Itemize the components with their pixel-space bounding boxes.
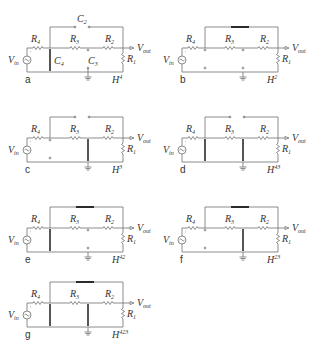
vin-label: Vin (8, 145, 19, 156)
plus-sign: + (184, 229, 187, 234)
R1-label: R1 (282, 54, 291, 65)
circuit-panel: + R4 R3 R2 R1 Vin Vout H3 c (0, 90, 150, 170)
R3-label: R3 (70, 214, 79, 225)
R1-label: R1 (127, 234, 136, 245)
vout-label: Vout (137, 43, 151, 54)
panel-tag: b (180, 75, 186, 85)
panel-tag: c (25, 165, 30, 175)
circuit-panel: + R4 R3 R2 R1 Vin Vout H423 g (0, 255, 150, 335)
R4-label: R4 (31, 214, 40, 225)
plus-sign: + (29, 229, 32, 234)
R4-label: R4 (31, 34, 40, 45)
R3-label: R3 (225, 34, 234, 45)
transfer-label: H4 (112, 74, 122, 85)
R2-label: R2 (260, 124, 269, 135)
plus-sign: + (29, 49, 32, 54)
R3-label: R3 (225, 124, 234, 135)
R2-label: R2 (105, 34, 114, 45)
R4-label: R4 (31, 124, 40, 135)
vin-label: Vin (8, 310, 19, 321)
plus-sign: + (184, 49, 187, 54)
vout-label: Vout (292, 43, 306, 54)
circuit-panel: + R4 R3 R2 R1 Vin Vout H23 f (155, 180, 305, 260)
C3-label: C3 (88, 56, 98, 67)
transfer-label: H3 (112, 164, 122, 175)
R2-label: R2 (105, 124, 114, 135)
vout-label: Vout (292, 223, 306, 234)
R4-label: R4 (31, 289, 40, 300)
plus-sign: + (184, 139, 187, 144)
panel-tag: f (180, 255, 183, 265)
C4-label: C4 (54, 56, 64, 67)
circuit-panel-a: + R4 R3 R2 R1 Vin Vout C2 C4 C3 H4 a (0, 0, 150, 80)
R2-label: R2 (105, 289, 114, 300)
R2-label: R2 (260, 34, 269, 45)
plus-sign: + (29, 304, 32, 309)
R3-label: R3 (70, 289, 79, 300)
vout-label: Vout (137, 223, 151, 234)
circuit-panel: + R4 R3 R2 R1 Vin Vout H2 b (155, 0, 305, 80)
R3-label: R3 (225, 214, 234, 225)
R3-label: R3 (70, 34, 79, 45)
vout-label: Vout (137, 133, 151, 144)
transfer-label: H2 (267, 74, 277, 85)
R3-label: R3 (70, 124, 79, 135)
vin-label: Vin (8, 235, 19, 246)
circuit-panel: + R4 R3 R2 R1 Vin Vout H42 e (0, 180, 150, 260)
plus-sign: + (29, 139, 32, 144)
panel-tag: a (25, 75, 31, 85)
R1-label: R1 (127, 144, 136, 155)
transfer-label: H43 (267, 164, 280, 175)
R1-label: R1 (282, 144, 291, 155)
R2-label: R2 (260, 214, 269, 225)
R4-label: R4 (186, 124, 195, 135)
circuit-panel: + R4 R3 R2 R1 Vin Vout H43 d (155, 90, 305, 170)
transfer-label: H423 (112, 329, 128, 340)
vin-label: Vin (163, 145, 174, 156)
transfer-label: H23 (267, 254, 280, 265)
R2-label: R2 (105, 214, 114, 225)
C2-label: C2 (77, 14, 87, 25)
panel-tag: g (25, 330, 31, 340)
panel-tag: d (180, 165, 186, 175)
vin-label: Vin (163, 55, 174, 66)
vin-label: Vin (8, 55, 19, 66)
vin-label: Vin (163, 235, 174, 246)
R1-label: R1 (127, 54, 136, 65)
R1-label: R1 (282, 234, 291, 245)
R4-label: R4 (186, 214, 195, 225)
vout-label: Vout (292, 133, 306, 144)
R1-label: R1 (127, 309, 136, 320)
R4-label: R4 (186, 34, 195, 45)
vout-label: Vout (137, 298, 151, 309)
